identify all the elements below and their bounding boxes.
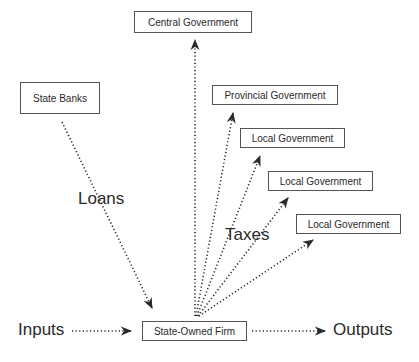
tax-arrow-local-3: [199, 240, 313, 316]
local-government-node-2: Local Government: [268, 171, 373, 191]
state-banks-node: State Banks: [20, 82, 100, 114]
inputs-label: Inputs: [18, 320, 64, 340]
loans-label: Loans: [78, 189, 124, 209]
local-government-node-1: Local Government: [240, 128, 345, 148]
central-government-node: Central Government: [134, 11, 252, 33]
tax-arrow-provincial: [196, 113, 233, 316]
tax-arrow-local-2: [198, 198, 288, 316]
loans-arrow: [62, 122, 152, 308]
state-owned-firm-node: State-Owned Firm: [142, 321, 247, 341]
local-government-node-3: Local Government: [296, 214, 401, 234]
outputs-label: Outputs: [333, 320, 393, 340]
provincial-government-node: Provincial Government: [212, 85, 338, 105]
taxes-label: Taxes: [225, 225, 269, 245]
